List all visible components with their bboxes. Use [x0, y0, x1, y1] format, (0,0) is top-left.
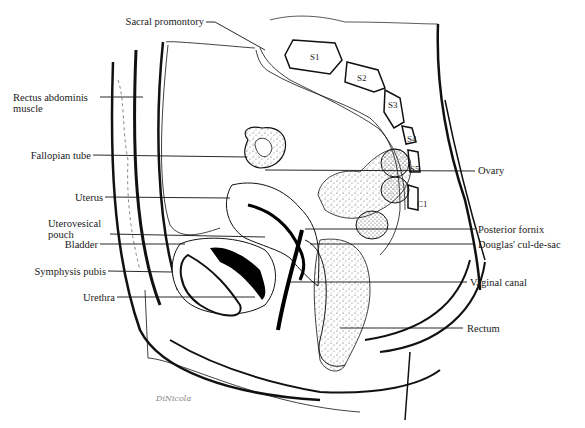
- label-urethra: Urethra: [0, 292, 115, 303]
- rectum-shape: [314, 239, 370, 371]
- label-posterior-fornix: Posterior fornix: [478, 224, 544, 235]
- label-douglas-cul-de-sac: Douglas' cul-de-sac: [478, 239, 561, 250]
- artist-signature: DiNicola: [156, 394, 191, 403]
- svg-text:S1: S1: [310, 52, 320, 62]
- label-rectus-abdominis-line2: muscle: [13, 103, 43, 114]
- label-sacral-promontory: Sacral promontory: [110, 16, 204, 27]
- label-rectus-abdominis: Rectus abdominis: [13, 92, 88, 103]
- label-rectum: Rectum: [467, 323, 500, 334]
- label-uterovesical-pouch: Uterovesical: [48, 218, 101, 229]
- pelvis-diagram: S1 S2 S3 S4 S5 C1: [0, 0, 585, 428]
- leader-lines: [93, 22, 475, 328]
- svg-text:S2: S2: [357, 73, 367, 83]
- label-fallopian-tube: Fallopian tube: [0, 150, 91, 161]
- label-ovary: Ovary: [478, 165, 504, 176]
- svg-text:S3: S3: [388, 100, 398, 110]
- svg-text:S4: S4: [407, 134, 417, 144]
- label-uterus: Uterus: [0, 192, 103, 203]
- label-vaginal-canal: Vaginal canal: [470, 277, 527, 288]
- svg-text:C1: C1: [417, 199, 428, 209]
- label-symphysis-pubis: Symphysis pubis: [0, 266, 106, 277]
- label-bladder: Bladder: [0, 239, 98, 250]
- svg-text:S5: S5: [410, 164, 420, 174]
